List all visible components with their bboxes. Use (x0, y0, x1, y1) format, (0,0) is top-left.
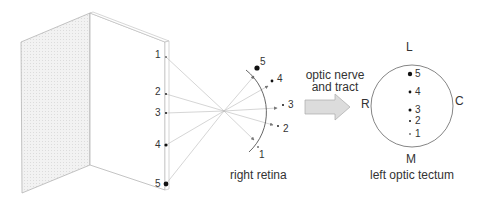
tectum-label-right: C (455, 95, 464, 107)
tectum-label-top: L (406, 41, 413, 53)
light-rays (166, 57, 277, 184)
retina-arc (246, 70, 266, 152)
screen-panel (90, 13, 165, 190)
retina-label-4: 4 (277, 74, 283, 84)
screen-label-2: 2 (155, 87, 161, 97)
tectum-label-left: R (361, 98, 370, 110)
screen-side (165, 41, 169, 190)
tectum-label-1: 1 (415, 129, 421, 139)
tectum-caption: left optic tectum (362, 169, 462, 182)
tectum-label-2: 2 (415, 116, 421, 126)
left-panel (21, 13, 90, 193)
retina-label-3: 3 (288, 100, 294, 110)
retina-label-5: 5 (260, 57, 266, 67)
screen-label-5: 5 (155, 179, 161, 189)
tectum-label-4: 4 (415, 87, 421, 97)
tectum-label-5: 5 (415, 69, 421, 79)
tectum-label-3: 3 (415, 105, 421, 115)
tectum-circle (371, 65, 453, 147)
retina-label-1: 1 (259, 150, 265, 160)
screen-label-3: 3 (155, 108, 161, 118)
retina-caption: right retina (230, 169, 287, 182)
tectum-label-bottom: M (406, 153, 416, 165)
pathway-arrow (305, 94, 350, 120)
screen-label-4: 4 (155, 140, 161, 150)
retina-label-2: 2 (283, 124, 289, 134)
screen-label-1: 1 (155, 50, 161, 60)
pathway-label-line2: and tract (300, 81, 370, 94)
